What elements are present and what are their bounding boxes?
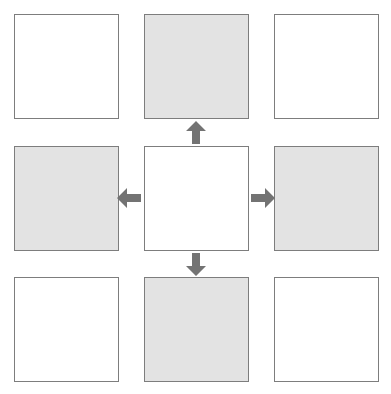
arrow-up-icon (186, 121, 206, 144)
cell-middle-right (274, 146, 379, 251)
arrow-right-icon (251, 188, 275, 208)
cell-bottom-left (14, 277, 119, 382)
arrow-down-icon (186, 253, 206, 276)
cell-center (144, 146, 249, 251)
diagram-canvas (0, 0, 391, 394)
cell-top-left (14, 14, 119, 119)
cell-top-center (144, 14, 249, 119)
cell-bottom-right (274, 277, 379, 382)
arrow-left-icon (117, 188, 141, 208)
cell-middle-left (14, 146, 119, 251)
cell-top-right (274, 14, 379, 119)
cell-bottom-center (144, 277, 249, 382)
